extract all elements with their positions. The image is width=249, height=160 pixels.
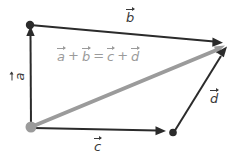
vector-diagram-svg [0,0,249,160]
vector-b-shaft [33,25,214,41]
equation-operator-plus-2: + [117,49,128,63]
vector-label-c: c [94,136,101,153]
vector-c [34,126,166,135]
vector-label-b-symbol: b [126,11,134,24]
point-origin [26,122,37,133]
equation-term-c: c [107,46,114,63]
vector-c-shaft [34,128,157,131]
vector-a [26,26,34,127]
point-bottom-right [169,129,177,137]
vector-equation: a + b = c + d [57,46,139,63]
point-top-left [26,21,34,29]
equation-term-c-symbol: c [107,50,114,63]
vector-c-arrowhead [156,126,167,135]
equation-term-d-arrow-icon [131,46,139,50]
vector-label-d-symbol: d [210,92,218,105]
vector-label-a: a [9,73,26,81]
vector-a-shaft [31,34,32,127]
vector-label-c-symbol: c [94,140,101,153]
equation-term-d: d [131,46,139,63]
equation-term-d-symbol: d [131,50,139,63]
vector-label-d-arrow-icon [210,88,218,92]
equation-term-b-arrow-icon [82,46,90,50]
vector-b-arrowhead [212,38,223,47]
equation-term-a: a [57,46,65,63]
equation-term-a-symbol: a [57,50,65,63]
vector-label-b-arrow-icon [126,7,134,11]
equation-operator-plus-1: + [68,49,79,63]
vector-b [33,25,223,47]
vector-label-b: b [126,7,134,24]
equation-operator-equals: = [93,49,104,63]
vector-label-a-symbol: a [13,73,26,81]
vector-diagram-canvas: a + b = c + d a b c d [0,0,249,160]
vector-label-c-arrow-icon [94,136,101,140]
equation-term-b-symbol: b [82,50,90,63]
equation-term-b: b [82,46,90,63]
vector-label-d: d [210,88,218,105]
equation-term-c-arrow-icon [107,46,114,50]
vector-label-a-arrow-icon [9,73,13,81]
equation-term-a-arrow-icon [57,46,65,50]
